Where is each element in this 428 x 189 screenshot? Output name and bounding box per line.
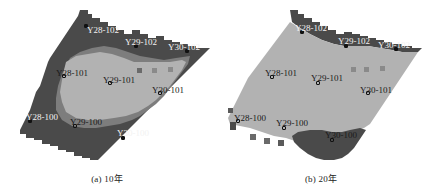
caption-a: (a) 10年: [0, 172, 214, 185]
well-label: Y30-101: [360, 86, 392, 95]
caption-b: (b) 20年: [214, 172, 428, 185]
well-label: Y29-102: [125, 38, 157, 47]
well-label: Y28-102: [295, 24, 327, 33]
panel-a: Y28-102Y29-102Y30-102Y28-101Y29-101Y30-1…: [0, 0, 214, 189]
well-label: Y28-102: [87, 26, 119, 35]
well-label: Y30-102: [378, 41, 410, 50]
well-label: Y29-101: [311, 74, 343, 83]
well-label: Y28-100: [234, 114, 266, 123]
well-label: Y30-101: [152, 86, 184, 95]
well-label: Y30-102: [168, 43, 200, 52]
well-label: Y28-101: [265, 69, 297, 78]
well-label: Y28-101: [56, 69, 88, 78]
well-label: Y29-100: [70, 118, 102, 127]
well-label: Y29-101: [103, 76, 135, 85]
panel-b: Y28-102Y29-102Y30-102Y28-101Y29-101Y30-1…: [214, 0, 428, 189]
well-label: Y29-102: [338, 37, 370, 46]
well-label: Y28-100: [26, 113, 58, 122]
well-label: Y30-100: [325, 131, 357, 140]
well-label: Y30-100: [117, 129, 149, 138]
well-label: Y29-100: [276, 119, 308, 128]
